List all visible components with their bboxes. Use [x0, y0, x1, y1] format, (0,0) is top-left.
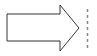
diagram-canvas — [0, 0, 97, 56]
right-arrow-shape — [7, 5, 79, 51]
